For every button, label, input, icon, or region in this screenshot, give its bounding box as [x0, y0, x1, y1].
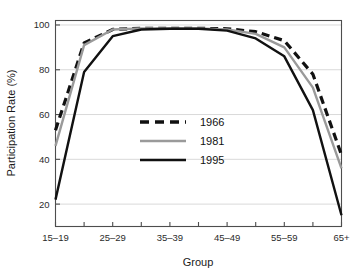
y-axis-title: Participation Rate (%): [5, 70, 17, 177]
y-axis-tick-label: 80: [39, 64, 50, 75]
x-axis-title: Group: [183, 256, 214, 268]
legend-label-1966: 1966: [200, 116, 224, 128]
participation-rate-line-chart: 20406080100 15–1925–2935–3945–4955–5965+…: [0, 0, 361, 274]
x-axis-tick-label: 25–29: [99, 232, 125, 243]
y-axis-tick-label: 20: [39, 199, 50, 210]
y-axis-tick-label: 100: [34, 19, 50, 30]
x-axis-tick-label: 65+: [333, 232, 350, 243]
x-axis-tick-label: 35–39: [157, 232, 183, 243]
x-axis-tick-label: 55–59: [271, 232, 297, 243]
y-axis-tick-label: 40: [39, 154, 50, 165]
chart-figure: 20406080100 15–1925–2935–3945–4955–5965+…: [0, 0, 361, 274]
x-axis-tick-label: 15–19: [42, 232, 68, 243]
y-axis-tick-label: 60: [39, 109, 50, 120]
x-axis-tick-label: 45–49: [214, 232, 240, 243]
legend-label-1995: 1995: [200, 154, 224, 166]
legend-label-1981: 1981: [200, 135, 224, 147]
